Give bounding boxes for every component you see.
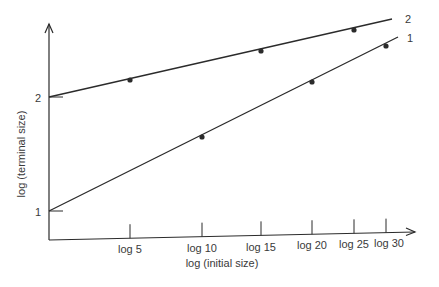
series-label-2: 2 <box>405 13 411 25</box>
line-chart: 2 1 log (terminal size) log (initial siz… <box>0 0 439 287</box>
y-tick-label-1: 1 <box>35 206 41 218</box>
x-tick-label: log 25 <box>339 238 369 250</box>
x-tick-label: log 15 <box>246 241 276 253</box>
y-axis-label: log (terminal size) <box>15 111 27 198</box>
y-tick-label-2: 2 <box>35 92 41 104</box>
series-2-data-point <box>351 27 356 32</box>
x-tick-label: log 5 <box>118 243 142 255</box>
x-tick-label: log 10 <box>187 242 217 254</box>
labels: 2 1 log (terminal size) log (initial siz… <box>15 13 413 269</box>
series-label-1: 1 <box>407 32 413 44</box>
series-1-line <box>49 37 398 211</box>
series-1-data-point <box>309 79 314 84</box>
x-axis-label: log (initial size) <box>186 257 259 269</box>
series-2-line <box>49 19 392 97</box>
series-1-data-point <box>383 43 388 48</box>
series-2-data-point <box>258 48 263 53</box>
x-tick-label: log 30 <box>374 237 404 249</box>
series-1-data-point <box>199 134 204 139</box>
x-tick-label: log 20 <box>297 239 327 251</box>
series-lines <box>49 19 398 211</box>
series-2-data-point <box>127 77 132 82</box>
